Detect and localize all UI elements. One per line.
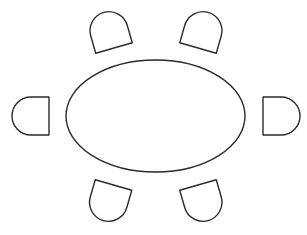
chair-top-right bbox=[180, 7, 227, 53]
chair-left bbox=[12, 97, 49, 135]
chair-top-left bbox=[86, 7, 133, 53]
chair-bottom-left bbox=[85, 180, 132, 226]
diagram-canvas: Oval table with six chairs bbox=[0, 0, 307, 235]
seating-diagram bbox=[0, 0, 307, 235]
oval-table bbox=[66, 60, 245, 172]
chair-bottom-right bbox=[180, 180, 227, 226]
chair-right bbox=[263, 97, 300, 135]
